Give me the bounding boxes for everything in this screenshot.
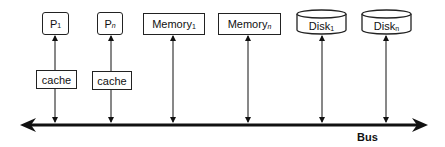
disk-n-label: Diskn (362, 18, 411, 34)
memory-1-name: Memory (152, 18, 192, 30)
cache-n-label: cache (97, 75, 126, 87)
disk-n-name: Disk (374, 20, 395, 32)
processor-n-name: P (104, 18, 111, 30)
memory-1-subscript: 1 (192, 23, 196, 30)
memory-n-name: Memory (228, 18, 268, 30)
processor-1-subscript: 1 (57, 22, 61, 29)
memory-n-subscript: n (267, 23, 271, 30)
disk-1-label: Disk1 (297, 18, 346, 34)
disk-n-subscript: n (395, 25, 399, 32)
processor-n-subscript: n (112, 22, 116, 29)
cache-1-box: cache (36, 70, 77, 89)
disk-1-subscript: 1 (330, 25, 334, 32)
processor-1-name: P (50, 18, 57, 30)
bus-label: Bus (357, 131, 378, 143)
processor-n-box: Pn (97, 12, 123, 35)
cache-n-box: cache (92, 71, 132, 90)
memory-n-box: Memoryn (218, 13, 281, 35)
memory-1-box: Memory1 (143, 13, 205, 35)
bus-line (20, 118, 428, 132)
cache-1-label: cache (42, 74, 71, 86)
processor-1-box: P1 (42, 12, 69, 35)
disk-1-name: Disk (309, 20, 330, 32)
